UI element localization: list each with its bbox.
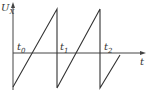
marker-t0: t0 bbox=[17, 42, 26, 55]
y-axis-label: UX bbox=[1, 3, 14, 16]
marker-t2-sub: 2 bbox=[108, 47, 112, 55]
marker-t2: t2 bbox=[104, 42, 113, 55]
t-axis-arrow-icon bbox=[140, 51, 146, 55]
y-axis-label-sub: X bbox=[9, 8, 14, 16]
marker-t0-sub: 0 bbox=[21, 47, 25, 55]
t-axis-label: t bbox=[140, 57, 144, 67]
marker-t1: t1 bbox=[60, 42, 69, 55]
t-axis-label-text: t bbox=[140, 56, 144, 67]
marker-t1-sub: 1 bbox=[64, 47, 68, 55]
